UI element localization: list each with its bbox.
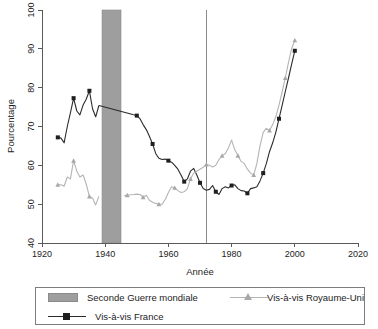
legend-row-bottom: Vis-à-vis France [36, 307, 364, 326]
marker-royaume-uni [236, 153, 241, 157]
x-tick-label: 2000 [285, 249, 305, 259]
y-tick-label: 100 [26, 2, 36, 17]
x-tick-label: 2020 [348, 249, 368, 259]
legend-item-seconde-guerre-mondiale[interactable]: Seconde Guerre mondiale [42, 288, 224, 307]
marker-france [245, 191, 249, 195]
marker-france [277, 117, 281, 121]
marker-royaume-uni [267, 128, 272, 132]
x-axis-title: Année [186, 266, 213, 277]
marker-france [135, 114, 139, 118]
marker-royaume-uni [87, 194, 92, 198]
marker-royaume-uni [283, 76, 288, 80]
y-tick-label: 90 [26, 44, 36, 54]
marker-france [230, 184, 234, 188]
marker-france [293, 49, 297, 53]
y-tick-label: 60 [26, 160, 36, 170]
y-tick-label: 70 [26, 121, 36, 131]
chart-container: 405060708090100192019401960198020002020 … [0, 0, 378, 329]
x-tick-label: 1920 [32, 249, 52, 259]
chart-svg: 405060708090100192019401960198020002020 … [0, 0, 378, 285]
axis-ticks [38, 10, 358, 247]
marker-france [166, 159, 170, 163]
marker-france [151, 142, 155, 146]
france-series-swatch-icon [48, 311, 86, 322]
seconde-guerre-mondiale-band [102, 10, 121, 243]
marker-france [214, 190, 218, 194]
series-line-france [58, 51, 295, 195]
marker-france [198, 181, 202, 185]
series-line-royaume-uni [58, 40, 295, 205]
chart-axes [42, 10, 358, 243]
marker-france [72, 96, 76, 100]
legend-row-top: Seconde Guerre mondiale Vis-à-vis Royaum… [36, 288, 364, 307]
marker-france [261, 171, 265, 175]
legend-label-royaume-uni: Vis-à-vis Royaume-Uni [267, 292, 364, 303]
x-tick-label: 1940 [95, 249, 115, 259]
y-tick-label: 40 [26, 238, 36, 248]
marker-france [182, 180, 186, 184]
marker-royaume-uni [71, 158, 76, 162]
y-axis-title: Pourcentage [5, 99, 16, 153]
marker-royaume-uni [220, 153, 225, 157]
chart-legend: Seconde Guerre mondiale Vis-à-vis Royaum… [35, 287, 365, 325]
x-tick-label: 1980 [222, 249, 242, 259]
plot-area: 405060708090100192019401960198020002020 … [0, 0, 378, 285]
axis-tick-labels: 405060708090100192019401960198020002020 [26, 2, 368, 259]
legend-item-royaume-uni[interactable]: Vis-à-vis Royaume-Uni [224, 288, 364, 307]
y-tick-label: 80 [26, 83, 36, 93]
legend-label-france: Vis-à-vis France [95, 311, 163, 322]
data-series-group [55, 38, 297, 206]
uk-series-swatch-icon [230, 292, 258, 303]
war-band-swatch-icon [48, 293, 78, 302]
marker-france [56, 135, 60, 139]
marker-royaume-uni [188, 177, 193, 181]
marker-royaume-uni [204, 162, 209, 166]
marker-royaume-uni [292, 38, 297, 42]
marker-royaume-uni [251, 173, 256, 177]
axis-lines [42, 10, 358, 243]
marker-france [87, 89, 91, 93]
legend-label-seconde-guerre-mondiale: Seconde Guerre mondiale [87, 292, 198, 303]
legend-item-france[interactable]: Vis-à-vis France [42, 307, 230, 326]
seconde-guerre-mondiale-band [102, 10, 121, 243]
x-tick-label: 1960 [158, 249, 178, 259]
y-tick-label: 50 [26, 199, 36, 209]
